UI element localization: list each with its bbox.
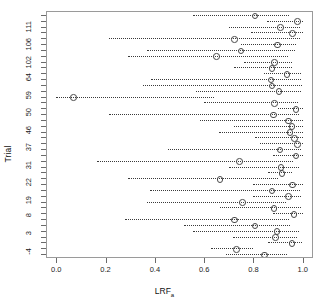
confidence-interval-line [56,97,214,98]
x-axis-tick-label: 0.0 [51,265,61,274]
estimate-point-marker [269,83,276,90]
estimate-point-marker [289,30,296,37]
confidence-interval-line [196,91,302,92]
x-axis-title-subscript: a [171,292,174,298]
confidence-interval-line [229,27,300,28]
y-axis-tick-label-text: 37 [25,143,33,151]
x-axis-title-text: LRF [155,286,171,296]
estimate-point-marker [70,94,77,101]
confidence-interval-line [128,56,288,57]
y-axis-tick-label-text: 106 [25,38,33,51]
confidence-interval-line [244,62,292,63]
confidence-interval-line [226,254,286,255]
chart-figure: Trial 111106102645950463731221983-4 0.00… [0,0,329,308]
x-axis-tick [253,258,254,263]
x-axis-tick [303,258,304,263]
x-axis-tick-label: 0.6 [199,265,209,274]
y-axis-ticks [38,11,46,258]
estimate-point-marker [277,147,284,154]
estimate-point-marker [269,65,276,72]
estimate-point-marker [270,112,277,119]
estimate-point-marker [289,240,296,247]
y-axis-tick-label-text: 8 [25,213,33,217]
confidence-interval-line [125,219,289,220]
estimate-point-marker [236,158,243,165]
estimate-point-marker [291,211,298,218]
estimate-point-marker [284,71,291,78]
estimate-point-marker [252,223,259,230]
estimate-point-marker [252,13,259,20]
x-axis: 0.00.20.40.60.81.0 [46,258,313,280]
confidence-interval-line [229,167,299,168]
confidence-interval-line [97,161,293,162]
x-axis-title: LRFa [0,286,329,298]
confidence-interval-line [147,50,295,51]
estimate-point-marker [217,176,224,183]
estimate-point-marker [269,188,276,195]
estimate-point-marker [294,141,301,148]
y-axis-tick-label-text: -4 [25,248,33,255]
y-axis-tick-label-text: 102 [25,56,33,69]
estimate-point-marker [294,18,301,25]
estimate-point-marker [231,36,238,43]
y-axis-tick-label-text: 31 [25,161,33,169]
confidence-interval-line [151,79,301,80]
confidence-interval-line [150,190,300,191]
estimate-point-marker [274,42,281,49]
plot-panel [46,11,313,258]
estimate-point-marker [293,153,300,160]
y-axis-tick-label-text: 64 [25,73,33,81]
data-rows [47,12,312,257]
confidence-interval-line [147,202,286,203]
estimate-point-marker [231,217,238,224]
estimate-point-marker [285,193,292,200]
confidence-interval-line [204,102,298,103]
estimate-point-marker [233,246,240,253]
y-axis-tick-label-text: 3 [25,231,33,235]
confidence-interval-line [241,44,296,45]
confidence-interval-line [234,67,292,68]
x-axis-tick [155,258,156,263]
confidence-interval-line [128,178,278,179]
estimate-point-marker [238,48,245,55]
confidence-interval-line [253,196,301,197]
estimate-point-marker [213,53,220,60]
confidence-interval-line [268,242,302,243]
confidence-interval-line [211,248,253,249]
y-axis-tick-label-text: 22 [25,178,33,186]
x-axis-tick-label: 0.8 [248,265,258,274]
confidence-interval-line [233,237,296,238]
confidence-interval-line [193,15,290,16]
confidence-interval-line [109,38,300,39]
confidence-interval-line [184,225,290,226]
confidence-interval-line [143,85,302,86]
estimate-point-marker [277,24,284,31]
estimate-point-marker [272,234,279,241]
confidence-interval-line [264,73,302,74]
x-axis-tick [204,258,205,263]
y-axis-tick-label-text: 19 [25,196,33,204]
estimate-point-marker [239,199,246,206]
y-axis-tick-label-text: 111 [25,21,33,32]
x-axis-tick-label: 0.2 [100,265,110,274]
confidence-interval-line [193,231,299,232]
confidence-interval-line [220,207,301,208]
estimate-point-marker [289,182,296,189]
estimate-point-marker [293,106,300,113]
estimate-point-marker [271,205,278,212]
estimate-point-marker [276,88,283,95]
y-axis-tick-labels: 111106102645950463731221983-4 [0,11,38,258]
confidence-interval-line [273,213,303,214]
x-axis-tick-label: 0.4 [150,265,160,274]
y-axis-tick-label-text: 46 [25,126,33,134]
y-axis-tick-label-text: 59 [25,91,33,99]
estimate-point-marker [279,170,286,177]
x-axis-tick [106,258,107,263]
x-axis-tick [56,258,57,263]
x-axis-tick-label: 1.0 [298,265,308,274]
estimate-point-marker [271,100,278,107]
y-axis-tick-label-text: 50 [25,108,33,116]
